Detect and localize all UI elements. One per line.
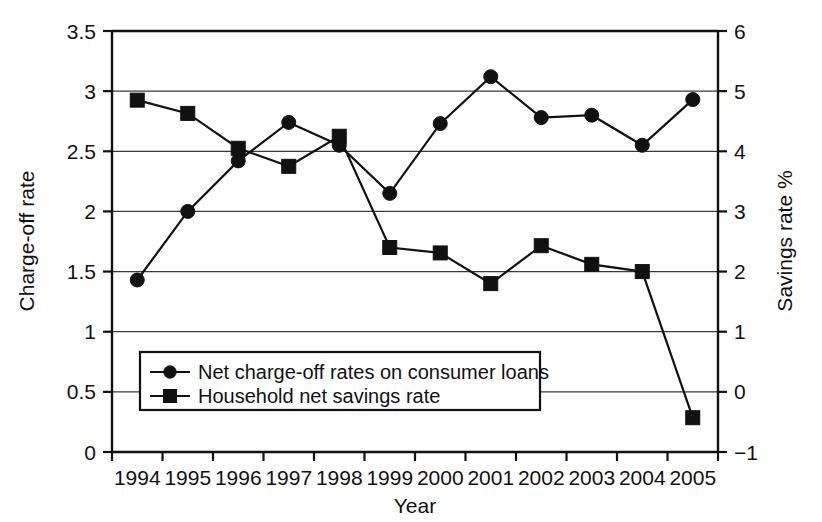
x-tick-label: 2001 xyxy=(467,466,514,489)
y-tick-label: 3 xyxy=(84,80,96,103)
x-tick-label: 1997 xyxy=(265,466,312,489)
chart-legend: Net charge-off rates on consumer loans H… xyxy=(140,352,549,410)
data-point-square xyxy=(332,129,346,143)
data-point-square xyxy=(484,277,498,291)
data-point-circle xyxy=(383,186,397,200)
line-chart: 00.511.522.533.5 −10123456 1994199519961… xyxy=(0,0,822,522)
square-marker-icon xyxy=(164,390,177,403)
data-point-square xyxy=(585,257,599,271)
y2-axis-title: Savings rate % xyxy=(773,170,796,311)
x-tick-label: 2002 xyxy=(518,466,565,489)
legend-label-charge-off: Net charge-off rates on consumer loans xyxy=(198,361,549,383)
x-tick-label: 1996 xyxy=(215,466,262,489)
data-point-square xyxy=(686,411,700,425)
y-tick-label: 1.5 xyxy=(67,260,96,283)
y2-tick-label: 0 xyxy=(734,380,746,403)
y-tick-label: 0 xyxy=(84,441,96,464)
y-tick-label: 2.5 xyxy=(67,140,96,163)
x-tick-label: 1995 xyxy=(164,466,211,489)
x-axis-title: Year xyxy=(394,494,436,517)
data-point-circle xyxy=(484,70,498,84)
x-tick-label: 1994 xyxy=(114,466,161,489)
data-point-circle xyxy=(585,108,599,122)
data-point-circle xyxy=(635,138,649,152)
circle-marker-icon xyxy=(164,366,176,378)
y-tick-label: 0.5 xyxy=(67,380,96,403)
data-point-circle xyxy=(231,154,245,168)
chart-background xyxy=(0,0,822,522)
y2-tick-label: 5 xyxy=(734,80,746,103)
legend-entry-charge-off: Net charge-off rates on consumer loans xyxy=(150,361,549,383)
data-point-square xyxy=(231,141,245,155)
x-tick-label: 1998 xyxy=(316,466,363,489)
chart-figure: 00.511.522.533.5 −10123456 1994199519961… xyxy=(0,0,822,522)
y-tick-label: 1 xyxy=(84,320,96,343)
data-point-square xyxy=(635,265,649,279)
data-point-square xyxy=(282,159,296,173)
x-tick-label: 2005 xyxy=(669,466,716,489)
data-point-square xyxy=(433,246,447,260)
data-point-circle xyxy=(433,117,447,131)
y-axis-title: Charge-off rate xyxy=(15,171,38,312)
x-tick-label: 2004 xyxy=(619,466,666,489)
y2-tick-label: 4 xyxy=(734,140,746,163)
y2-tick-label: 1 xyxy=(734,320,746,343)
y2-tick-label: 2 xyxy=(734,260,746,283)
data-point-circle xyxy=(181,204,195,218)
y-tick-label: 3.5 xyxy=(67,20,96,43)
data-point-square xyxy=(383,241,397,255)
x-tick-label: 2000 xyxy=(417,466,464,489)
data-point-square xyxy=(130,93,144,107)
x-tick-label: 2003 xyxy=(568,466,615,489)
y2-tick-label: 6 xyxy=(734,20,746,43)
data-point-circle xyxy=(282,115,296,129)
data-point-circle xyxy=(534,111,548,125)
y-tick-label: 2 xyxy=(84,200,96,223)
x-tick-label: 1999 xyxy=(366,466,413,489)
legend-label-savings: Household net savings rate xyxy=(198,385,440,407)
y2-tick-label: 3 xyxy=(734,200,746,223)
data-point-circle xyxy=(686,93,700,107)
data-point-circle xyxy=(130,273,144,287)
data-point-square xyxy=(534,239,548,253)
y2-tick-label: −1 xyxy=(734,441,758,464)
data-point-square xyxy=(181,106,195,120)
